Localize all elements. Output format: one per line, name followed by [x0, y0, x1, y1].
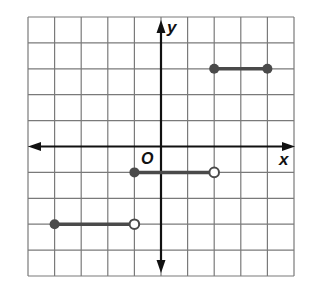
origin-label: O	[141, 150, 154, 167]
segment	[129, 167, 219, 177]
segment	[50, 219, 140, 229]
closed-endpoint-icon	[129, 167, 139, 177]
x-axis-left-arrow-icon	[28, 142, 41, 151]
open-endpoint-icon	[130, 219, 140, 229]
y-axis-down-arrow-icon	[157, 260, 166, 273]
closed-endpoint-icon	[262, 64, 272, 74]
closed-endpoint-icon	[209, 64, 219, 74]
open-endpoint-icon	[209, 168, 219, 178]
closed-endpoint-icon	[50, 219, 60, 229]
y-axis-up-arrow-icon	[157, 20, 166, 33]
coordinate-graph: x y O	[0, 0, 314, 299]
axes	[28, 20, 295, 273]
x-axis-label: x	[278, 150, 290, 169]
y-axis-label: y	[166, 18, 178, 37]
